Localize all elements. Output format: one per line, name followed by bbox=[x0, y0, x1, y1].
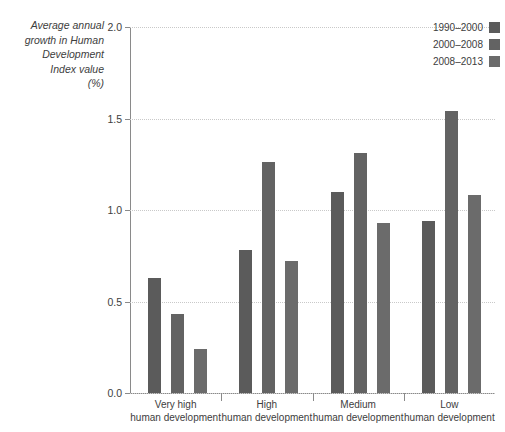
legend-item: 2000–2008 bbox=[396, 37, 500, 52]
bar bbox=[171, 314, 184, 393]
bars-layer bbox=[130, 27, 495, 393]
bar bbox=[285, 261, 298, 393]
bar bbox=[262, 162, 275, 393]
legend-swatch-icon bbox=[489, 56, 500, 67]
legend-item-label: 2000–2008 bbox=[433, 39, 483, 50]
bar bbox=[445, 111, 458, 393]
legend-item-label: 1990–2000 bbox=[433, 22, 483, 33]
bar bbox=[239, 250, 252, 393]
legend-swatch-icon bbox=[489, 39, 500, 50]
bar bbox=[148, 278, 161, 393]
y-tick-label: 0.5 bbox=[107, 296, 122, 308]
category-label: Very high human development bbox=[130, 398, 221, 424]
bar-chart: Average annual growth in Human Developme… bbox=[0, 0, 505, 432]
bar bbox=[377, 223, 390, 393]
legend-item-label: 2008–2013 bbox=[433, 56, 483, 67]
bar bbox=[468, 195, 481, 393]
y-tick-label: 1.5 bbox=[107, 113, 122, 125]
plot-area: 0.00.51.01.52.0 bbox=[130, 27, 495, 393]
category-label: Medium human development bbox=[313, 398, 404, 424]
legend-swatch-icon bbox=[489, 22, 500, 33]
bar bbox=[422, 221, 435, 393]
y-tick-label: 0.0 bbox=[107, 387, 122, 399]
y-axis-title: Average annual growth in Human Developme… bbox=[6, 18, 104, 91]
bar bbox=[354, 153, 367, 393]
y-tick-label: 2.0 bbox=[107, 21, 122, 33]
legend-item: 1990–2000 bbox=[396, 20, 500, 35]
legend-item: 2008–2013 bbox=[396, 54, 500, 69]
bar bbox=[194, 349, 207, 393]
category-label: Low human development bbox=[404, 398, 495, 424]
category-label: High human development bbox=[221, 398, 312, 424]
legend: 1990–20002000–20082008–2013 bbox=[396, 20, 500, 71]
y-tick-label: 1.0 bbox=[107, 204, 122, 216]
bar bbox=[331, 192, 344, 393]
y-tick-mark bbox=[125, 393, 130, 394]
